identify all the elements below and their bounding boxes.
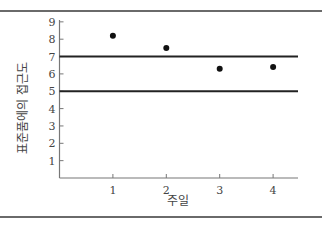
y-tick-label: 5 (49, 85, 56, 98)
y-tick-label: 2 (49, 137, 56, 150)
x-axis-title: 주일 (167, 194, 189, 208)
y-tick-label: 3 (49, 120, 56, 133)
axes (60, 20, 299, 178)
reference-lines (60, 57, 299, 92)
data-points (110, 33, 276, 72)
y-tick-label: 1 (49, 155, 56, 168)
x-tick-label: 4 (270, 184, 277, 197)
x-tick-label: 1 (109, 184, 116, 197)
data-point (270, 64, 276, 70)
y-tick-label: 8 (49, 33, 56, 46)
y-tick-label: 9 (49, 16, 56, 29)
y-tick-label: 4 (49, 103, 56, 116)
y-axis-title: 표준품에의 접근도 (16, 62, 30, 154)
scatter-chart: 123456789 1234 주일 표준품에의 접근도 (0, 0, 322, 228)
data-point (110, 33, 116, 39)
data-point (217, 66, 223, 72)
y-tick-label: 7 (49, 51, 56, 64)
x-tick-label: 3 (216, 184, 223, 197)
y-tick-label: 6 (49, 68, 56, 81)
data-point (163, 45, 169, 51)
